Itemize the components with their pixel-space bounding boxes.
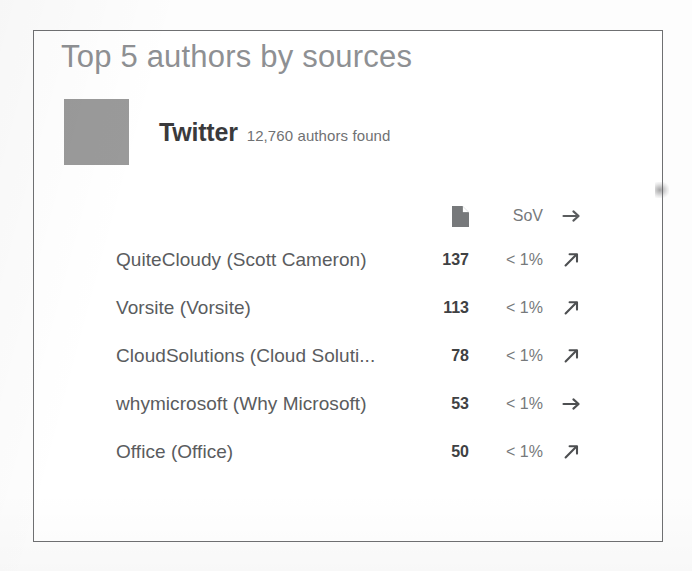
author-sov: < 1%	[469, 395, 551, 413]
source-authors-found: 12,760 authors found	[247, 127, 391, 144]
author-sov: < 1%	[469, 347, 551, 365]
document-icon	[452, 206, 469, 227]
trend-cell	[551, 299, 591, 317]
source-name: Twitter	[159, 118, 238, 147]
author-name: CloudSolutions (Cloud Soluti...	[61, 345, 390, 367]
trend-cell	[551, 396, 591, 412]
table-row[interactable]: CloudSolutions (Cloud Soluti... 78 < 1%	[61, 332, 642, 380]
author-mentions-count: 50	[390, 443, 469, 461]
author-mentions-count: 78	[390, 347, 469, 365]
source-label: Twitter 12,760 authors found	[159, 118, 391, 147]
table-row[interactable]: whymicrosoft (Why Microsoft) 53 < 1%	[61, 380, 642, 428]
trend-cell	[551, 347, 591, 365]
author-mentions-count: 113	[390, 299, 469, 317]
arrow-up-right-icon	[551, 251, 591, 269]
trend-cell	[551, 443, 591, 461]
page-title: Top 5 authors by sources	[61, 37, 412, 77]
table-row[interactable]: QuiteCloudy (Scott Cameron) 137 < 1%	[61, 236, 642, 284]
author-name: QuiteCloudy (Scott Cameron)	[61, 249, 390, 271]
arrow-up-right-icon	[551, 299, 591, 317]
arrow-right-icon	[551, 208, 591, 224]
arrow-up-right-icon	[551, 347, 591, 365]
author-name: whymicrosoft (Why Microsoft)	[61, 393, 390, 415]
arrow-right-icon	[551, 396, 591, 412]
table-row[interactable]: Office (Office) 50 < 1%	[61, 428, 642, 476]
author-mentions-count: 137	[390, 251, 469, 269]
trend-cell	[551, 251, 591, 269]
author-sov: < 1%	[469, 251, 551, 269]
author-name: Office (Office)	[61, 441, 390, 463]
author-mentions-count: 53	[390, 395, 469, 413]
table-row[interactable]: Vorsite (Vorsite) 113 < 1%	[61, 284, 642, 332]
source-logo-placeholder	[64, 99, 129, 165]
column-header-mentions	[390, 206, 469, 227]
column-header-sov: SoV	[469, 207, 551, 225]
authors-table: SoV QuiteCloudy (Scott Cameron) 137 < 1%	[61, 196, 642, 476]
author-sov: < 1%	[469, 443, 551, 461]
top-authors-card: Top 5 authors by sources Twitter 12,760 …	[33, 30, 663, 542]
scanned-page: Top 5 authors by sources Twitter 12,760 …	[0, 0, 692, 571]
column-header-trend	[551, 208, 591, 224]
table-header-row: SoV	[61, 196, 642, 236]
author-sov: < 1%	[469, 299, 551, 317]
source-summary: Twitter 12,760 authors found	[64, 99, 391, 165]
arrow-up-right-icon	[551, 443, 591, 461]
author-name: Vorsite (Vorsite)	[61, 297, 390, 319]
